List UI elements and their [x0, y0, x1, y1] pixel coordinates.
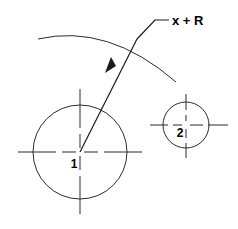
- drawing-canvas: x + R 1 2: [0, 0, 238, 229]
- dimension-label: x + R: [172, 13, 204, 28]
- circle-two-label: 2: [177, 126, 184, 140]
- leader-line: [137, 20, 169, 39]
- reference-arc: [38, 36, 176, 82]
- radius-arrow-head: [105, 57, 116, 73]
- technical-diagram: x + R 1 2: [0, 0, 238, 229]
- radius-arrow-shaft: [80, 39, 137, 152]
- circle-one-label: 1: [71, 157, 78, 171]
